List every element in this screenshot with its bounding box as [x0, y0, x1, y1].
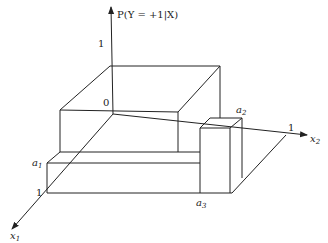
- vertical-tick-1: 1: [98, 38, 104, 49]
- main-box: [60, 66, 220, 152]
- probability-diagram: P(Y = +1|X) 1 0 1 1 x2 x1 a1 a2 a3: [0, 0, 328, 243]
- floor-plane: [47, 135, 286, 193]
- vertical-axis: [111, 7, 113, 114]
- origin-label: 0: [103, 97, 109, 108]
- vertical-axis-label: P(Y = +1|X): [117, 9, 178, 21]
- x1-axis-label: x1: [10, 230, 20, 243]
- x2-axis: [113, 114, 307, 135]
- axes: [12, 7, 307, 229]
- a2-label: a2: [236, 104, 247, 117]
- x2-tick-1: 1: [288, 122, 294, 133]
- small-box: [200, 118, 242, 193]
- x2-axis-label: x2: [310, 133, 321, 146]
- a1-label: a1: [32, 157, 42, 170]
- x1-axis: [12, 114, 113, 229]
- lower-slab: [47, 152, 200, 193]
- a3-label: a3: [196, 197, 207, 210]
- x1-tick-1: 1: [36, 187, 42, 198]
